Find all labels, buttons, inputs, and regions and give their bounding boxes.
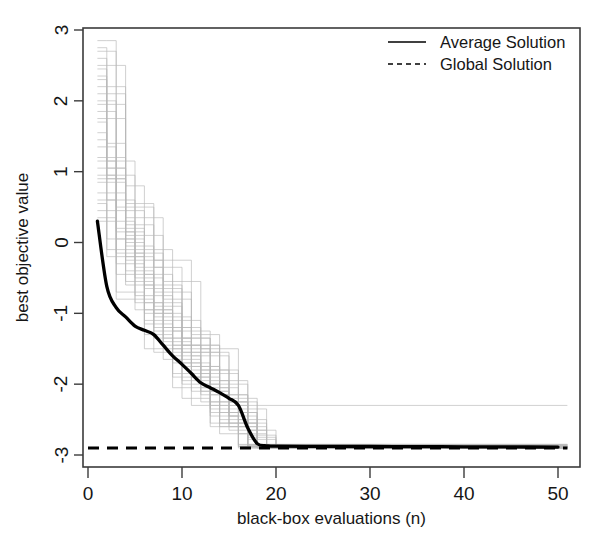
x-tick-label: 0 — [83, 483, 94, 504]
x-axis: 01020304050 — [83, 467, 569, 504]
y-axis-title: best objective value — [13, 173, 32, 322]
x-axis-title: black-box evaluations (n) — [237, 509, 426, 528]
trajectory-line — [97, 76, 567, 447]
trajectory-line — [97, 218, 567, 448]
y-tick-label: 1 — [51, 166, 72, 177]
trajectory-line — [97, 147, 567, 447]
trajectory-line — [97, 69, 567, 446]
legend-label-0: Average Solution — [440, 33, 565, 51]
trajectory-line — [97, 140, 567, 448]
plot-canvas: 3210-1-2-301020304050black-box evaluatio… — [0, 0, 596, 560]
y-tick-label: -3 — [51, 447, 72, 464]
plot-box — [83, 28, 580, 467]
trajectory-line — [97, 58, 567, 446]
y-tick-label: -1 — [51, 305, 72, 322]
trajectory-line — [97, 65, 567, 448]
y-tick-label: 0 — [51, 237, 72, 248]
x-tick-label: 20 — [265, 483, 286, 504]
legend: Average SolutionGlobal Solution — [388, 33, 565, 73]
chart-figure: 3210-1-2-301020304050black-box evaluatio… — [0, 0, 596, 560]
trajectory-group — [97, 41, 567, 448]
x-tick-label: 10 — [171, 483, 192, 504]
trajectory-line — [97, 204, 567, 448]
y-tick-label: 3 — [51, 25, 72, 36]
trajectory-line — [97, 48, 567, 446]
y-tick-label: 2 — [51, 96, 72, 107]
trajectory-line — [97, 51, 567, 446]
x-tick-label: 50 — [547, 483, 568, 504]
y-axis: 3210-1-2-3 — [51, 25, 84, 464]
trajectory-line — [97, 161, 567, 446]
trajectory-line — [97, 87, 567, 447]
trajectory-line — [97, 133, 567, 447]
x-tick-label: 30 — [359, 483, 380, 504]
x-tick-label: 40 — [453, 483, 474, 504]
average-solution-line — [97, 221, 558, 447]
legend-label-1: Global Solution — [440, 55, 552, 73]
trajectory-line — [97, 94, 567, 445]
trajectory-line — [97, 111, 567, 447]
trajectory-line — [97, 80, 567, 447]
trajectory-line — [97, 168, 567, 446]
trajectory-line — [97, 211, 567, 447]
y-tick-label: -2 — [51, 376, 72, 393]
